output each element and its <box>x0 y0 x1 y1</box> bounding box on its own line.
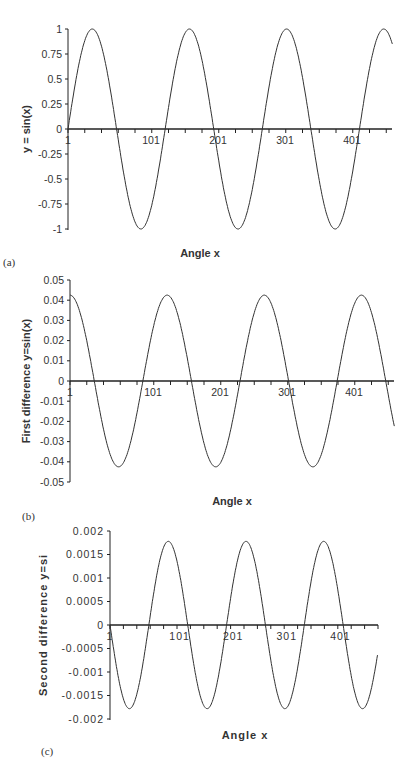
x-tick-label: 201 <box>211 386 229 398</box>
y-tick-label: 0.25 <box>42 98 63 110</box>
x-tick-label: 101 <box>169 630 190 642</box>
chart-b-y-axis-title: First difference y=sin(x) <box>20 318 32 443</box>
y-tick-label: 0.5 <box>47 73 62 85</box>
y-tick-label: -0.04 <box>40 455 64 467</box>
chart-a-panel-label: (a) <box>3 256 16 269</box>
x-tick-label: 1 <box>65 134 71 146</box>
y-tick-label: 0.0015 <box>66 548 104 560</box>
y-tick-label: -0.0005 <box>61 642 104 654</box>
y-tick-label: 0.001 <box>73 572 104 584</box>
chart-a-y-tick-labels: 10.750.50.250-0.25-0.5-0.75-1 <box>38 23 62 235</box>
y-tick-label: 0.0005 <box>66 595 104 607</box>
x-tick-label: 401 <box>345 386 363 398</box>
y-tick-label: 0.02 <box>44 334 65 346</box>
x-tick-label: 1 <box>67 386 73 398</box>
figure: 10.750.50.250-0.25-0.5-0.75-1 1101201301… <box>0 0 413 771</box>
chart-c-x-tick-labels: 1101201301401 <box>107 630 351 642</box>
chart-a-x-axis-title: Angle x <box>180 247 221 259</box>
x-tick-label: 101 <box>144 386 162 398</box>
chart-c-y-axis-title: Second difference y=si <box>37 554 49 696</box>
chart-c-x-axis-title: Angle x <box>222 729 269 741</box>
y-tick-label: -0.001 <box>68 666 104 678</box>
chart-c-panel-label: (c) <box>41 745 54 758</box>
y-tick-label: 0.05 <box>44 274 65 286</box>
y-tick-label: 0.75 <box>42 48 63 60</box>
x-tick-label: 301 <box>278 386 296 398</box>
x-tick-label: 401 <box>330 630 351 642</box>
x-tick-label: 301 <box>276 134 294 146</box>
chart-a-x-tick-labels: 1101201301401 <box>65 134 361 146</box>
chart-b-x-axis-title: Angle x <box>212 495 253 507</box>
chart-a-y-axis-title: y = sin(x) <box>20 105 32 153</box>
chart-b-panel-label: (b) <box>22 510 35 523</box>
y-tick-label: -0.0015 <box>61 689 104 701</box>
y-tick-label: -0.75 <box>38 198 62 210</box>
chart-b-y-tick-labels: 0.050.040.030.020.010-0.01-0.02-0.03-0.0… <box>40 274 64 488</box>
chart-b: 0.050.040.030.020.010-0.01-0.02-0.03-0.0… <box>20 274 394 524</box>
x-tick-label: 101 <box>142 134 160 146</box>
y-tick-label: -0.02 <box>40 415 64 427</box>
y-tick-label: -0.002 <box>68 713 104 725</box>
y-tick-label: -0.5 <box>44 173 62 185</box>
chart-b-axes <box>67 280 394 482</box>
y-tick-label: 0.01 <box>44 354 65 366</box>
y-tick-label: -0.25 <box>38 148 62 160</box>
y-tick-label: -1 <box>53 223 62 235</box>
y-tick-label: 0 <box>58 375 64 387</box>
y-tick-label: 0.03 <box>44 314 65 326</box>
y-tick-label: -0.05 <box>40 476 64 488</box>
x-tick-label: 201 <box>209 134 227 146</box>
y-tick-label: 0 <box>97 619 104 631</box>
y-tick-label: 0.002 <box>73 525 104 537</box>
chart-c-y-tick-labels: 0.0020.00150.0010.00050-0.0005-0.001-0.0… <box>61 525 104 725</box>
chart-a-axes <box>65 29 392 230</box>
y-tick-label: 0.04 <box>44 294 65 306</box>
y-tick-label: 0 <box>56 123 62 135</box>
chart-c: 0.0020.00150.0010.00050-0.0005-0.001-0.0… <box>37 525 378 759</box>
chart-a: 10.750.50.250-0.25-0.5-0.75-1 1101201301… <box>3 23 392 270</box>
chart-b-x-tick-labels: 1101201301401 <box>67 386 363 398</box>
y-tick-label: -0.03 <box>40 435 64 447</box>
y-tick-label: 1 <box>56 23 62 35</box>
y-tick-label: -0.01 <box>40 395 64 407</box>
chart-c-axes <box>107 531 378 720</box>
x-tick-label: 301 <box>277 630 298 642</box>
